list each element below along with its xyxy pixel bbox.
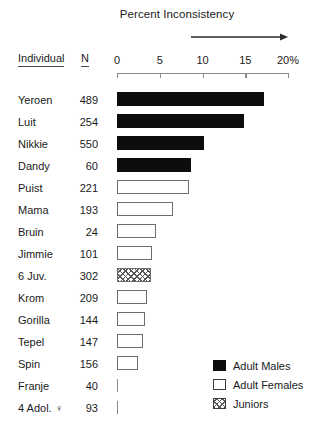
- row-value-n: 144: [60, 314, 98, 327]
- legend-swatch-junior: [213, 398, 226, 409]
- bar: [117, 290, 147, 304]
- bar: [117, 202, 173, 216]
- legend-label: Juniors: [233, 398, 268, 410]
- row-value-n: 489: [60, 94, 98, 107]
- bar: [117, 246, 152, 260]
- x-axis-tick-label: 10: [196, 54, 208, 66]
- column-header-n: N: [81, 52, 89, 67]
- bar: [117, 356, 138, 370]
- row-value-n: 147: [60, 336, 98, 349]
- x-axis-tick-label: 20%: [277, 54, 299, 66]
- bar-row: Luit254: [0, 112, 318, 134]
- bar: [117, 114, 244, 128]
- legend-item: Adult Females: [213, 375, 303, 394]
- row-label-individual: Mama: [18, 204, 49, 217]
- x-axis-tick-label: 5: [157, 54, 163, 66]
- bar-row: Yeroen489: [0, 90, 318, 112]
- row-label-individual: Franje: [18, 380, 49, 393]
- row-label-individual: 4 Adol. ♀: [18, 402, 63, 415]
- row-label-individual: Yeroen: [18, 94, 52, 107]
- row-label-individual: Krom: [18, 292, 44, 305]
- bar: [117, 312, 145, 326]
- row-value-n: 40: [60, 380, 98, 393]
- direction-arrow-icon: [191, 31, 289, 43]
- bar-row: Dandy60: [0, 156, 318, 178]
- bar: [117, 224, 156, 238]
- chart-title-text: Percent Inconsistency: [120, 8, 235, 20]
- row-label-individual: Bruin: [18, 226, 44, 239]
- row-label-individual: 6 Juv.: [18, 270, 47, 283]
- row-label-individual: Luit: [18, 116, 36, 129]
- row-value-n: 221: [60, 182, 98, 195]
- legend-item: Juniors: [213, 394, 303, 413]
- bar: [117, 334, 143, 348]
- row-label-individual: Dandy: [18, 160, 50, 173]
- row-value-n: 302: [60, 270, 98, 283]
- row-value-n: 209: [60, 292, 98, 305]
- bar: [117, 136, 204, 150]
- bar: [117, 379, 118, 392]
- bar-row: Bruin24: [0, 222, 318, 244]
- row-label-individual: Tepel: [18, 336, 44, 349]
- bar-row: Krom209: [0, 288, 318, 310]
- row-label-individual: Jimmie: [18, 248, 53, 261]
- bar-row: Jimmie101: [0, 244, 318, 266]
- row-value-n: 60: [60, 160, 98, 173]
- row-value-n: 254: [60, 116, 98, 129]
- bar-row: Nikkie550: [0, 134, 318, 156]
- bar-row: Mama193: [0, 200, 318, 222]
- column-header-individual: Individual: [18, 52, 64, 67]
- row-value-n: 156: [60, 358, 98, 371]
- legend-item: Adult Males: [213, 356, 303, 375]
- row-value-n: 24: [60, 226, 98, 239]
- row-label-individual: Gorilla: [18, 314, 50, 327]
- x-axis-tick: [245, 73, 246, 78]
- bar: [117, 158, 191, 172]
- row-label-individual: Nikkie: [18, 138, 48, 151]
- bar-row: Gorilla144: [0, 310, 318, 332]
- chart-title: Percent Inconsistency: [0, 8, 318, 20]
- legend-swatch-female: [213, 379, 226, 390]
- legend-swatch-male: [213, 360, 226, 371]
- row-value-n: 93: [60, 402, 98, 415]
- x-axis-tick-label: 0: [114, 54, 120, 66]
- bar-row: Tepel147: [0, 332, 318, 354]
- bar-row: 6 Juv.302: [0, 266, 318, 288]
- row-label-individual: Puist: [18, 182, 42, 195]
- row-value-n: 550: [60, 138, 98, 151]
- bar-row: Puist221: [0, 178, 318, 200]
- x-axis-tick-label: 15: [239, 54, 251, 66]
- bar: [117, 180, 189, 194]
- bar: [117, 401, 118, 414]
- legend-label: Adult Females: [233, 379, 303, 391]
- legend-label: Adult Males: [233, 360, 290, 372]
- x-axis-tick: [288, 73, 289, 78]
- x-axis-tick: [203, 73, 204, 78]
- row-value-n: 101: [60, 248, 98, 261]
- bar: [117, 268, 151, 282]
- row-value-n: 193: [60, 204, 98, 217]
- legend: Adult MalesAdult FemalesJuniors: [213, 356, 303, 413]
- row-label-individual: Spin: [18, 358, 40, 371]
- bar: [117, 92, 264, 106]
- x-axis-tick: [117, 73, 118, 78]
- bar-chart: Percent Inconsistency Individual N 05101…: [0, 0, 318, 427]
- x-axis-tick: [160, 73, 161, 78]
